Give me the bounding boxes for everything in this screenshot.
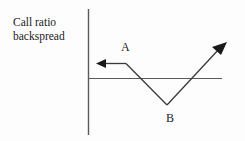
label-b: B — [166, 111, 174, 125]
payoff-ascending-segment — [167, 48, 220, 105]
payoff-descending-segment — [126, 64, 167, 106]
right-arrowhead-icon — [212, 42, 227, 55]
call-ratio-backspread-figure: Call ratio backspread A B — [0, 0, 245, 141]
payoff-diagram: A B — [0, 0, 245, 141]
label-a: A — [121, 40, 130, 54]
left-arrowhead-icon — [96, 59, 106, 68]
